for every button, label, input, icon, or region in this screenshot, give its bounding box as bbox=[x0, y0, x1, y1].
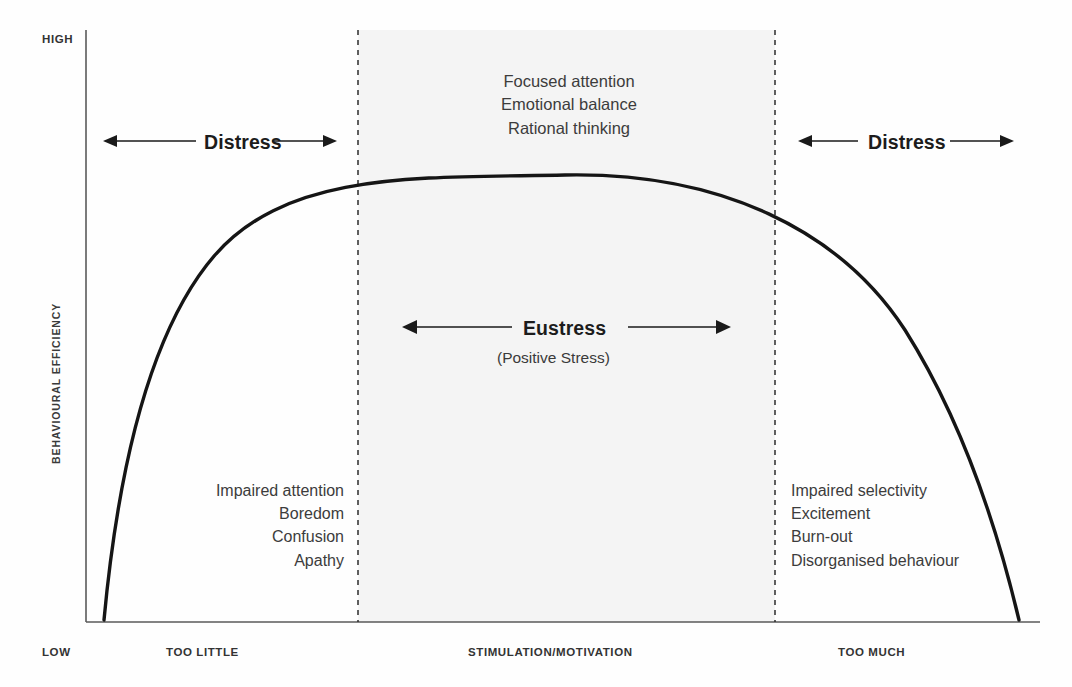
distress-left-label: Distress bbox=[204, 130, 282, 156]
stress-curve-figure: HIGH BEHAVIOURAL EFFICIENCY LOW TOO LITT… bbox=[0, 0, 1072, 687]
peak-descriptor-line-3: Rational thinking bbox=[464, 117, 674, 140]
left-symptom-line-1: Impaired attention bbox=[154, 479, 344, 502]
left-symptom-line-2: Boredom bbox=[154, 502, 344, 525]
right-symptom-line-3: Burn-out bbox=[791, 525, 1041, 548]
eustress-label: Eustress bbox=[523, 316, 606, 342]
x-axis-tick-too-little: TOO LITTLE bbox=[166, 645, 239, 660]
right-symptom-block: Impaired selectivity Excitement Burn-out… bbox=[791, 479, 1041, 572]
x-axis-tick-stimulation-motivation: STIMULATION/MOTIVATION bbox=[468, 645, 633, 660]
x-axis-tick-too-much: TOO MUCH bbox=[838, 645, 905, 660]
left-symptom-line-3: Confusion bbox=[154, 525, 344, 548]
left-symptom-line-4: Apathy bbox=[154, 549, 344, 572]
peak-descriptor-line-1: Focused attention bbox=[464, 70, 674, 93]
right-symptom-line-4: Disorganised behaviour bbox=[791, 549, 1041, 572]
y-axis-high-label: HIGH bbox=[42, 32, 73, 47]
peak-descriptor-line-2: Emotional balance bbox=[464, 93, 674, 116]
left-symptom-block: Impaired attention Boredom Confusion Apa… bbox=[154, 479, 344, 572]
y-axis-title: BEHAVIOURAL EFFICIENCY bbox=[50, 303, 62, 464]
right-symptom-line-2: Excitement bbox=[791, 502, 1041, 525]
x-axis-low-label: LOW bbox=[42, 645, 71, 660]
peak-descriptor-block: Focused attention Emotional balance Rati… bbox=[464, 70, 674, 140]
eustress-sublabel: (Positive Stress) bbox=[497, 348, 610, 368]
distress-right-label: Distress bbox=[868, 130, 946, 156]
right-symptom-line-1: Impaired selectivity bbox=[791, 479, 1041, 502]
